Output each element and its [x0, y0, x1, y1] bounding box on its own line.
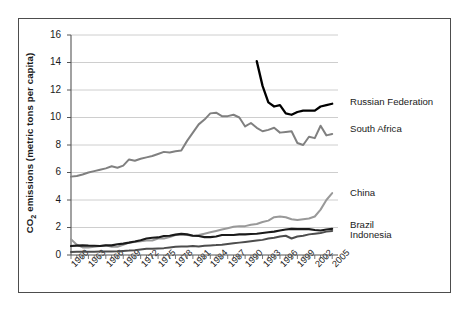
gridlines [71, 35, 338, 228]
figure: CO2 emissions (metric tons per capita) 0… [0, 0, 469, 311]
axis-ticks [67, 35, 332, 259]
plot-area [0, 0, 469, 311]
